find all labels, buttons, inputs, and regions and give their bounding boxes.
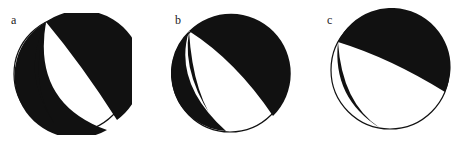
beachball-a [12,13,132,135]
beachball-b [171,13,291,135]
beachball-c [330,8,452,134]
